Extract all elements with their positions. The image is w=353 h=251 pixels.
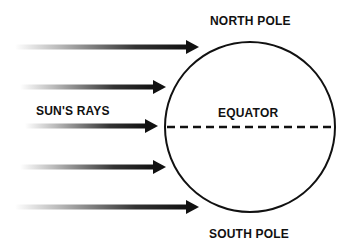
earth-globe	[165, 42, 335, 212]
arrowhead-icon	[186, 40, 199, 54]
ray-arrow-3	[25, 119, 158, 133]
arrowhead-icon	[145, 119, 158, 133]
ray-arrow-1	[15, 40, 199, 54]
arrowhead-icon	[153, 160, 166, 174]
north-pole-label: NORTH POLE	[210, 14, 291, 28]
ray-arrow-4	[20, 160, 166, 174]
ray-arrow-5	[15, 200, 199, 214]
equator-label: EQUATOR	[218, 106, 278, 120]
sun-rays-diagram	[0, 0, 353, 251]
arrowhead-icon	[186, 200, 199, 214]
ray-arrow-2	[20, 80, 166, 94]
south-pole-label: SOUTH POLE	[209, 227, 289, 241]
suns-rays-label: SUN'S RAYS	[36, 104, 110, 118]
arrowhead-icon	[153, 80, 166, 94]
